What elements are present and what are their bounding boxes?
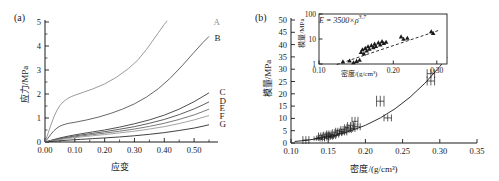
panel-b-x-axis-title: 密度/(g/cm³) <box>309 162 439 175</box>
panel-a-x-tick-label: 0.00 <box>38 145 53 155</box>
panel-b-x-tick-label: 0.20 <box>358 146 373 156</box>
inset-y-tick-label: 10 <box>309 35 317 44</box>
panel-b-y-tick-label: 40 <box>279 40 288 50</box>
data-point-marker <box>427 77 434 86</box>
figure-root: (a) 0123450.000.100.200.300.400.50ABCDEF… <box>0 0 499 181</box>
inset-y-axis-title: 模量/MPa <box>296 3 306 63</box>
inset-y-tick-label: 100 <box>305 10 317 19</box>
panel-a-x-tick-label: 0.40 <box>157 145 172 155</box>
inset-x-tick-label: 0.30 <box>430 66 443 75</box>
panel-b-y-tick-label: 30 <box>279 64 288 74</box>
panel-b-y-tick-label: 35 <box>279 52 288 62</box>
data-point-marker <box>384 114 391 121</box>
panel-a-x-tick-label: 0.30 <box>127 145 142 155</box>
panel-b-x-tick-label: 0.15 <box>321 146 336 156</box>
panel-a-y-tick-label: 1 <box>37 113 41 123</box>
panel-b-x-tick-label: 0.25 <box>395 146 410 156</box>
panel-a-x-axis-title: 应变 <box>60 160 180 173</box>
panel-b-y-tick-label: 5 <box>283 126 287 136</box>
panel-b-y-tick-label: 45 <box>279 27 288 37</box>
panel-b-data-points <box>303 69 435 144</box>
inset-equation-annotation: E = 3500×ρ3.7 <box>319 14 366 25</box>
panel-b-y-tick-label: 25 <box>279 77 288 87</box>
panel-a-y-tick-label: 2 <box>37 89 41 99</box>
panel-a-curve-B <box>45 36 209 142</box>
inset-equation-exponent: 3.7 <box>359 14 367 20</box>
panel-b-y-tick-label: 20 <box>279 89 288 99</box>
panel-b-plot: 051015202530354045500.100.150.200.250.30… <box>249 0 499 181</box>
panel-a-x-tick-label: 0.20 <box>97 145 112 155</box>
panel-a-y-tick-label: 4 <box>37 41 42 51</box>
panel-a-y-tick-label: 5 <box>37 17 41 27</box>
panel-b-y-tick-label: 15 <box>279 101 288 111</box>
panel-b-x-tick-label: 0.10 <box>284 146 299 156</box>
panel-a-y-tick-label: 3 <box>37 65 41 75</box>
panel-a-x-tick-label: 0.10 <box>67 145 82 155</box>
panel-b-y-tick-label: 10 <box>279 113 288 123</box>
panel-b-x-tick-label: 0.35 <box>470 146 485 156</box>
panel-a: (a) 0123450.000.100.200.300.400.50ABCDEF… <box>0 0 250 181</box>
data-point-marker <box>377 96 384 107</box>
data-point-marker <box>314 136 318 140</box>
panel-a-curve-F <box>45 116 209 142</box>
panel-a-curve-label-B: B <box>214 33 220 43</box>
inset-x-axis-title: 密度/(g/cm³) <box>304 68 414 78</box>
panel-b-y-tick-label: 50 <box>279 15 288 25</box>
panel-b-y-axis-title: 模量/MPa <box>261 39 274 119</box>
panel-a-y-axis-title: 应力/MPa <box>18 45 31 125</box>
panel-b: (b) 051015202530354045500.100.150.200.25… <box>249 0 499 181</box>
inset-equation-base: E = 3500×ρ <box>319 16 359 25</box>
panel-a-curve-label-G: G <box>219 119 226 129</box>
panel-a-x-tick-label: 0.50 <box>187 145 202 155</box>
panel-a-axes <box>45 20 218 142</box>
panel-a-curve-label-A: A <box>214 17 221 27</box>
panel-b-x-tick-label: 0.30 <box>432 146 447 156</box>
panel-a-curve-G <box>45 125 209 142</box>
panel-a-plot: 0123450.000.100.200.300.400.50ABCDEFG <box>0 0 250 181</box>
